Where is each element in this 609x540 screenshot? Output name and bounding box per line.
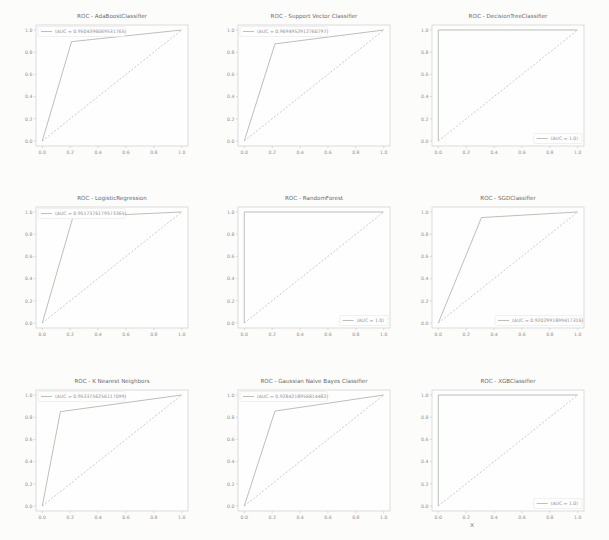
x-tick-label: 0.4 — [94, 332, 101, 337]
x-tick-label: 0.6 — [122, 515, 129, 520]
y-tick-label: 1.0 — [421, 393, 428, 398]
y-tick-label: 0.0 — [421, 504, 428, 509]
y-tick-label: 0.0 — [421, 139, 428, 144]
x-tick-label: 1.0 — [178, 515, 185, 520]
x-tick-label: 0.0 — [241, 150, 248, 155]
y-tick-label: 0.2 — [227, 299, 234, 304]
y-tick-label: 0.6 — [25, 254, 32, 259]
x-tick-label: 0.6 — [122, 150, 129, 155]
x-tick-label: 0.2 — [269, 332, 276, 337]
y-tick-label: 0.0 — [25, 321, 32, 326]
chart-title: ROC - DecisionTreeClassifier — [469, 13, 548, 19]
x-tick-label: 1.0 — [380, 515, 387, 520]
legend-auc-label: (AUC = 0.9517376179573365) — [55, 211, 126, 216]
x-tick-label: 0.6 — [122, 332, 129, 337]
y-tick-label: 0.0 — [227, 139, 234, 144]
roc-subplot-adaboost: ROC - AdaBoostClassifier0.00.20.40.60.81… — [10, 8, 196, 166]
x-tick-label: 1.0 — [574, 150, 581, 155]
y-tick-label: 0.0 — [227, 504, 234, 509]
legend-decision-tree: (AUC = 1.0) — [534, 134, 582, 144]
x-tick-label: 1.0 — [574, 515, 581, 520]
x-tick-label: 0.6 — [324, 150, 331, 155]
x-tick-label: 0.4 — [490, 515, 497, 520]
chart-title: ROC - RandomForest — [285, 195, 344, 201]
roc-subplot-xgb: ROC - XGBClassifier0.00.20.40.60.81.00.0… — [406, 373, 592, 531]
y-tick-label: 0.8 — [421, 415, 428, 420]
x-tick-label: 0.6 — [518, 515, 525, 520]
chart-title: ROC - K Nearest Neighbors — [74, 378, 149, 385]
x-tick-label: 1.0 — [574, 332, 581, 337]
x-tick-label: 0.8 — [150, 332, 157, 337]
x-tick-label: 0.6 — [324, 515, 331, 520]
y-tick-label: 0.6 — [25, 72, 32, 77]
x-tick-label: 0.8 — [546, 332, 553, 337]
x-tick-label: 0.2 — [463, 515, 470, 520]
x-tick-label: 0.6 — [324, 332, 331, 337]
x-tick-label: 0.0 — [39, 332, 46, 337]
legend-gaussian-nb: (AUC = 0.9284218956814482) — [240, 392, 328, 402]
y-tick-label: 0.8 — [25, 232, 32, 237]
roc-chart-svc: ROC - Support Vector Classifier0.00.20.4… — [212, 8, 398, 166]
x-tick-label: 0.0 — [241, 332, 248, 337]
roc-chart-xgb: ROC - XGBClassifier0.00.20.40.60.81.00.0… — [406, 373, 592, 531]
y-tick-label: 0.6 — [25, 437, 32, 442]
x-tick-label: 0.2 — [269, 515, 276, 520]
legend-knn: (AUC = 0.9533756256117099) — [38, 392, 126, 402]
roc-chart-adaboost: ROC - AdaBoostClassifier0.00.20.40.60.81… — [10, 8, 196, 166]
roc-subplot-svc: ROC - Support Vector Classifier0.00.20.4… — [212, 8, 398, 166]
y-tick-label: 0.6 — [227, 72, 234, 77]
y-tick-label: 0.8 — [227, 415, 234, 420]
y-tick-label: 1.0 — [25, 210, 32, 215]
y-tick-label: 0.2 — [25, 299, 32, 304]
x-tick-label: 0.0 — [435, 332, 442, 337]
legend-random-forest: (AUC = 1.0) — [340, 316, 388, 326]
y-tick-label: 0.8 — [227, 50, 234, 55]
y-tick-label: 0.2 — [421, 299, 428, 304]
roc-subplot-decision-tree: ROC - DecisionTreeClassifier0.00.20.40.6… — [406, 8, 592, 166]
x-tick-label: 0.8 — [150, 150, 157, 155]
legend-auc-label: (AUC = 0.9284218956814482) — [257, 394, 328, 399]
y-tick-label: 0.8 — [421, 50, 428, 55]
y-tick-label: 0.4 — [421, 459, 428, 464]
roc-subplot-random-forest: ROC - RandomForest0.00.20.40.60.81.00.00… — [212, 190, 398, 348]
y-tick-label: 1.0 — [25, 393, 32, 398]
x-tick-label: 0.2 — [67, 515, 74, 520]
x-tick-label: 0.2 — [463, 332, 470, 337]
roc-subplot-knn: ROC - K Nearest Neighbors0.00.20.40.60.8… — [10, 373, 196, 531]
x-tick-label: 0.8 — [352, 515, 359, 520]
y-tick-label: 0.8 — [25, 415, 32, 420]
y-tick-label: 0.8 — [227, 232, 234, 237]
y-tick-label: 1.0 — [227, 393, 234, 398]
x-tick-label: 0.2 — [67, 332, 74, 337]
x-tick-label: 0.0 — [435, 150, 442, 155]
y-tick-label: 0.4 — [25, 94, 32, 99]
legend-auc-label: (AUC = 1.0) — [357, 318, 385, 323]
legend-xgb: (AUC = 1.0) — [534, 499, 582, 509]
chart-title: ROC - XGBClassifier — [480, 378, 536, 384]
stray-mark: x — [470, 521, 474, 529]
x-tick-label: 1.0 — [380, 150, 387, 155]
x-tick-label: 1.0 — [380, 332, 387, 337]
legend-adaboost: (AUC = 0.9504396069531765) — [38, 27, 126, 37]
y-tick-label: 0.4 — [227, 459, 234, 464]
chart-title: ROC - SGDClassifier — [480, 195, 536, 201]
y-tick-label: 0.0 — [227, 321, 234, 326]
x-tick-label: 0.2 — [463, 150, 470, 155]
y-tick-label: 1.0 — [25, 28, 32, 33]
y-tick-label: 0.4 — [25, 459, 32, 464]
x-tick-label: 1.0 — [178, 150, 185, 155]
x-tick-label: 0.0 — [39, 150, 46, 155]
x-tick-label: 0.4 — [94, 515, 101, 520]
y-tick-label: 0.0 — [25, 504, 32, 509]
legend-svc: (AUC = 0.9694952912760797) — [240, 27, 328, 37]
x-tick-label: 0.4 — [296, 150, 303, 155]
y-tick-label: 0.4 — [421, 276, 428, 281]
roc-chart-random-forest: ROC - RandomForest0.00.20.40.60.81.00.00… — [212, 190, 398, 348]
y-tick-label: 1.0 — [421, 210, 428, 215]
y-tick-label: 0.4 — [25, 276, 32, 281]
y-tick-label: 0.6 — [421, 254, 428, 259]
roc-subplot-sgd: ROC - SGDClassifier0.00.20.40.60.81.00.0… — [406, 190, 592, 348]
y-tick-label: 0.2 — [227, 482, 234, 487]
y-tick-label: 0.8 — [25, 50, 32, 55]
roc-subplot-gaussian-nb: ROC - Gaussian Naive Bayes Classifier0.0… — [212, 373, 398, 531]
